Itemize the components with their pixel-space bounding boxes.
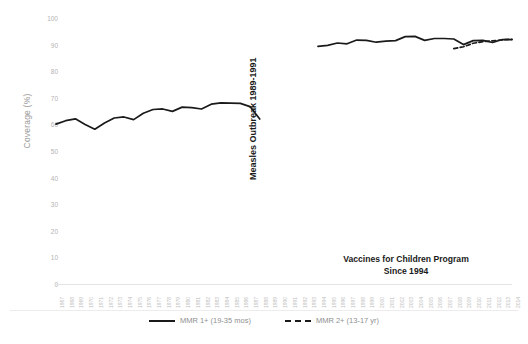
x-tick-label: 2005	[428, 297, 434, 308]
x-tick-label: 2010	[476, 297, 482, 308]
x-tick-label: 2006	[437, 297, 443, 308]
x-tick-label: 1969	[78, 297, 84, 308]
legend-divider	[10, 310, 518, 311]
x-tick-label: 1983	[214, 297, 220, 308]
x-tick-label: 1978	[166, 297, 172, 308]
x-tick-label: 1990	[282, 297, 288, 308]
annotation-measles-outbreak: Measles Outbreak 1989-1991	[248, 10, 258, 180]
x-tick-label: 2013	[505, 297, 511, 308]
x-tick-label: 1984	[224, 297, 230, 308]
x-tick-label: 2003	[408, 297, 414, 308]
annotation-vfc-program: Vaccines for Children Program Since 1994	[330, 253, 482, 277]
legend-item-mmr2: MMR 2+ (13-17 yr)	[285, 316, 379, 325]
series-line-1	[56, 103, 260, 129]
chart-container: Coverage (%) 0102030405060708090100 1967…	[0, 0, 528, 344]
x-tick-label: 1976	[146, 297, 152, 308]
x-tick-label: 1996	[340, 297, 346, 308]
x-tick-label: 1985	[234, 297, 240, 308]
x-tick-label: 1979	[175, 297, 181, 308]
x-axis-tick-labels: 1967196819691970197119721973197419751976…	[56, 286, 512, 312]
x-tick-label: 1994	[321, 297, 327, 308]
legend-label-mmr1: MMR 1+ (19-35 mos)	[180, 316, 251, 325]
legend-swatch-solid-icon	[149, 320, 175, 322]
x-tick-label: 1977	[156, 297, 162, 308]
x-tick-label: 1968	[69, 297, 75, 308]
x-tick-label: 1986	[243, 297, 249, 308]
x-tick-label: 2012	[496, 297, 502, 308]
x-tick-label: 1975	[137, 297, 143, 308]
x-tick-label: 1973	[117, 297, 123, 308]
x-tick-label: 1992	[302, 297, 308, 308]
x-tick-label: 1988	[263, 297, 269, 308]
x-tick-label: 1972	[108, 297, 114, 308]
chart-legend: MMR 1+ (19-35 mos) MMR 2+ (13-17 yr)	[0, 316, 528, 325]
x-tick-label: 2014	[515, 297, 521, 308]
x-tick-label: 1998	[360, 297, 366, 308]
annotation-vfc-line2: Since 1994	[330, 265, 482, 277]
x-axis-line	[56, 284, 512, 285]
x-tick-label: 1974	[127, 297, 133, 308]
x-tick-label: 1967	[59, 297, 65, 308]
x-tick-label: 1989	[272, 297, 278, 308]
x-tick-label: 2011	[486, 297, 492, 308]
x-tick-label: 1980	[185, 297, 191, 308]
x-tick-label: 2001	[389, 297, 395, 308]
x-tick-label: 2000	[379, 297, 385, 308]
x-tick-label: 1999	[369, 297, 375, 308]
legend-label-mmr2: MMR 2+ (13-17 yr)	[316, 316, 379, 325]
x-tick-label: 1970	[88, 297, 94, 308]
x-tick-label: 1981	[195, 297, 201, 308]
x-tick-label: 2008	[457, 297, 463, 308]
x-tick-label: 2002	[399, 297, 405, 308]
x-tick-label: 1995	[331, 297, 337, 308]
x-tick-label: 1993	[311, 297, 317, 308]
x-tick-label: 1997	[350, 297, 356, 308]
x-tick-label: 2007	[447, 297, 453, 308]
annotation-vfc-line1: Vaccines for Children Program	[330, 253, 482, 265]
x-tick-label: 2009	[466, 297, 472, 308]
x-tick-label: 1991	[292, 297, 298, 308]
x-tick-label: 1982	[205, 297, 211, 308]
x-tick-label: 1971	[98, 297, 104, 308]
x-tick-label: 2004	[418, 297, 424, 308]
legend-item-mmr1: MMR 1+ (19-35 mos)	[149, 316, 251, 325]
legend-swatch-dashed-icon	[285, 320, 311, 322]
x-tick-label: 1987	[253, 297, 259, 308]
